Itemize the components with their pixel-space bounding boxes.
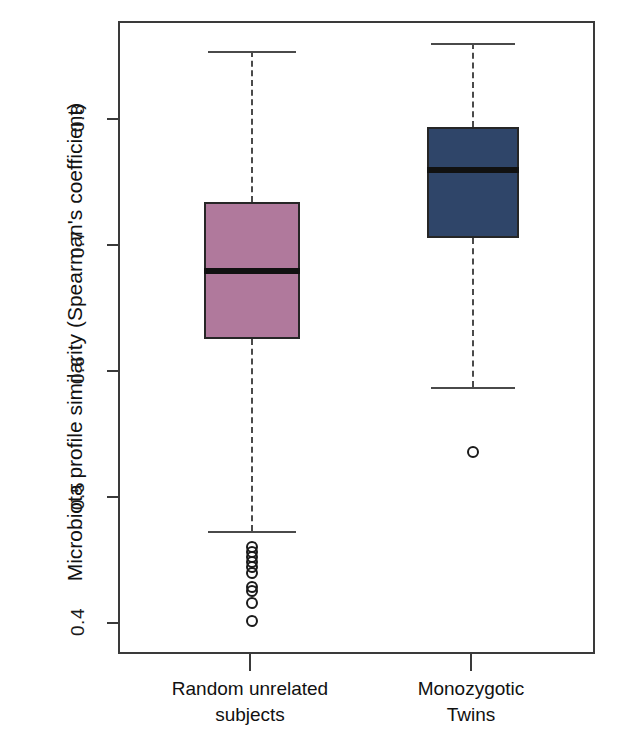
- x-tick-label: Monozygotic Twins: [361, 676, 581, 728]
- whisker-cap-lower: [208, 531, 296, 533]
- whisker-upper: [472, 43, 474, 127]
- outlier-point: [246, 585, 258, 597]
- y-tick-label: 0.4: [67, 600, 89, 644]
- whisker-lower: [251, 339, 253, 532]
- whisker-cap-upper: [208, 51, 296, 53]
- y-axis-title: Microbiota profile similarity (Spearman'…: [63, 62, 87, 622]
- y-tick-mark: [107, 370, 118, 372]
- outlier-point: [467, 446, 479, 458]
- y-tick-mark: [107, 118, 118, 120]
- y-tick-label: 0.7: [67, 222, 89, 266]
- y-tick-mark: [107, 244, 118, 246]
- y-tick-mark: [107, 622, 118, 624]
- y-tick-label: 0.8: [67, 96, 89, 140]
- y-tick-label: 0.5: [67, 474, 89, 518]
- whisker-cap-upper: [431, 43, 515, 45]
- outlier-point: [246, 597, 258, 609]
- y-tick-mark: [107, 496, 118, 498]
- boxplot-figure: Microbiota profile similarity (Spearman'…: [0, 0, 628, 751]
- whisker-upper: [251, 51, 253, 202]
- whisker-lower: [472, 238, 474, 386]
- plot-area: [118, 21, 595, 654]
- median-line-1: [204, 268, 300, 274]
- x-tick-mark: [470, 654, 472, 671]
- outlier-point: [246, 567, 258, 579]
- median-line-2: [427, 167, 519, 173]
- box-2: [427, 127, 519, 238]
- whisker-cap-lower: [431, 387, 515, 389]
- y-tick-label: 0.6: [67, 348, 89, 392]
- x-tick-mark: [249, 654, 251, 671]
- outlier-point: [246, 615, 258, 627]
- x-tick-label: Random unrelated subjects: [140, 676, 360, 728]
